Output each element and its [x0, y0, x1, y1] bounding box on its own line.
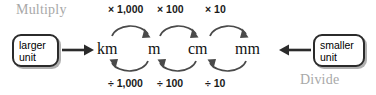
larger-unit-arrow-icon: [62, 45, 94, 56]
metric-conversion-diagram: Multiply Divide × 1,000 × 100 × 10 ÷ 1,0…: [0, 0, 376, 95]
arc-multiply-cm-to-mm-icon: [210, 26, 249, 38]
arc-multiply-km-to-m-icon: [112, 26, 151, 38]
arrow-layer: [0, 0, 376, 95]
arc-divide-cm-to-m-icon: [158, 59, 197, 71]
arc-divide-mm-to-cm-icon: [208, 59, 247, 71]
arc-multiply-m-to-cm-icon: [160, 26, 199, 38]
arc-divide-m-to-km-icon: [110, 59, 149, 71]
smaller-unit-arrow-icon: [279, 45, 311, 56]
